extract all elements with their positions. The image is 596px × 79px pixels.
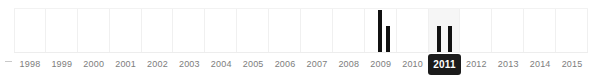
timeline-year-label-1999[interactable]: 1999 bbox=[46, 57, 78, 72]
timeline-year-label-2002[interactable]: 2002 bbox=[142, 57, 174, 72]
timeline-column-2013[interactable] bbox=[492, 9, 524, 53]
timeline-column-2012[interactable] bbox=[460, 9, 492, 53]
timeline-year-label-2008[interactable]: 2008 bbox=[333, 57, 365, 72]
timeline-year-label-2011[interactable]: 2011 bbox=[429, 55, 461, 74]
timeline-column-2002[interactable] bbox=[142, 9, 174, 53]
timeline-year-label-2005[interactable]: 2005 bbox=[237, 57, 269, 72]
timeline-truncation-dash bbox=[5, 61, 12, 62]
timeline-plot-area[interactable] bbox=[14, 8, 588, 53]
timeline-year-label-2004[interactable]: 2004 bbox=[205, 57, 237, 72]
timeline-column-2015[interactable] bbox=[556, 9, 588, 53]
timeline-year-label-2003[interactable]: 2003 bbox=[173, 57, 205, 72]
timeline-year-label-1998[interactable]: 1998 bbox=[14, 57, 46, 72]
timeline-column-2004[interactable] bbox=[205, 9, 237, 53]
timeline-column-2001[interactable] bbox=[110, 9, 142, 53]
timeline-column-2010[interactable] bbox=[397, 9, 429, 53]
timeline-bar-2011-3[interactable] bbox=[448, 26, 452, 53]
timeline-column-2005[interactable] bbox=[237, 9, 269, 53]
timeline-year-label-2013[interactable]: 2013 bbox=[492, 57, 524, 72]
timeline-column-2000[interactable] bbox=[78, 9, 110, 53]
timeline-year-label-2006[interactable]: 2006 bbox=[269, 57, 301, 72]
timeline-year-label-2012[interactable]: 2012 bbox=[460, 57, 492, 72]
timeline-column-2011[interactable] bbox=[429, 9, 461, 53]
timeline-column-2007[interactable] bbox=[301, 9, 333, 53]
timeline-column-1998[interactable] bbox=[14, 9, 46, 53]
timeline-year-label-2007[interactable]: 2007 bbox=[301, 57, 333, 72]
timeline-column-2003[interactable] bbox=[173, 9, 205, 53]
timeline-column-2006[interactable] bbox=[269, 9, 301, 53]
timeline-year-label-2014[interactable]: 2014 bbox=[524, 57, 556, 72]
timeline-bar-2009-1[interactable] bbox=[386, 26, 390, 53]
timeline-bar-2011-2[interactable] bbox=[437, 26, 441, 53]
publication-year-timeline[interactable]: 1998199920002001200220032004200520062007… bbox=[0, 0, 596, 79]
timeline-year-label-2000[interactable]: 2000 bbox=[78, 57, 110, 72]
timeline-axis-labels[interactable]: 1998199920002001200220032004200520062007… bbox=[14, 54, 588, 79]
timeline-bar-2009-0[interactable] bbox=[378, 10, 382, 53]
timeline-baseline bbox=[14, 52, 588, 53]
timeline-column-2014[interactable] bbox=[524, 9, 556, 53]
timeline-plot-inner bbox=[14, 9, 588, 53]
timeline-column-2008[interactable] bbox=[333, 9, 365, 53]
timeline-year-label-2009[interactable]: 2009 bbox=[365, 57, 397, 72]
timeline-column-1999[interactable] bbox=[46, 9, 78, 53]
timeline-year-label-2001[interactable]: 2001 bbox=[110, 57, 142, 72]
timeline-year-label-2010[interactable]: 2010 bbox=[397, 57, 429, 72]
timeline-year-label-2015[interactable]: 2015 bbox=[556, 57, 588, 72]
